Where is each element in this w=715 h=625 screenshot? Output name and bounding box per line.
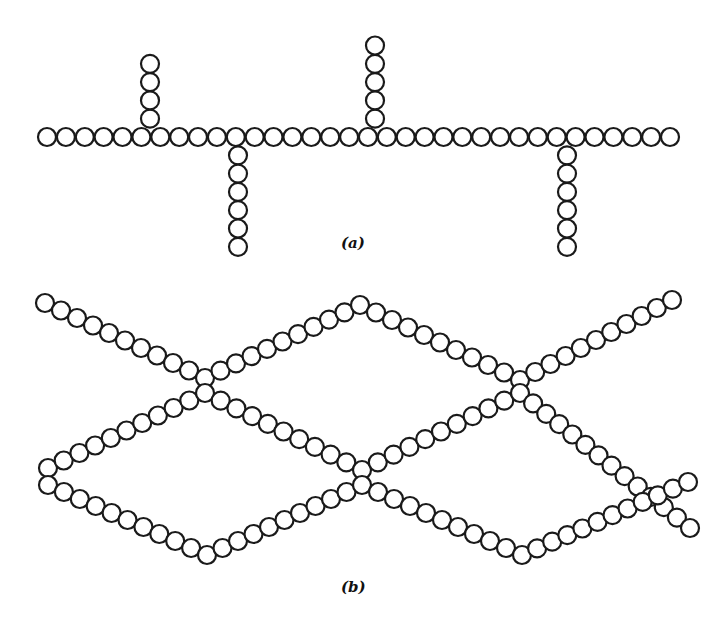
main-chain-bead [114, 128, 132, 146]
main-chain-bead [170, 128, 188, 146]
main-chain-bead [435, 128, 453, 146]
main-chain-bead [151, 128, 169, 146]
branch-bead [366, 55, 384, 73]
branch-bead [229, 201, 247, 219]
main-chain-bead [661, 128, 679, 146]
branch-bead [558, 201, 576, 219]
main-chain-bead [265, 128, 283, 146]
main-chain-bead [642, 128, 660, 146]
main-chain-bead [227, 128, 245, 146]
branch-bead [141, 110, 159, 128]
branch-bead [558, 220, 576, 238]
panel-a-label: (a) [341, 234, 365, 252]
main-chain-bead [548, 128, 566, 146]
main-chain-bead [491, 128, 509, 146]
branch-bead [229, 220, 247, 238]
branch-bead [558, 238, 576, 256]
main-chain-bead [567, 128, 585, 146]
branch-bead [558, 146, 576, 164]
polymer-chain-diagram [0, 0, 715, 625]
branch-bead [141, 55, 159, 73]
main-chain-bead [38, 128, 56, 146]
branch-bead [229, 183, 247, 201]
main-chain-bead [378, 128, 396, 146]
main-chain-bead [189, 128, 207, 146]
main-chain-bead [529, 128, 547, 146]
main-chain-bead [416, 128, 434, 146]
main-chain-bead [321, 128, 339, 146]
branch-bead [366, 110, 384, 128]
chain-middle-bead [681, 519, 699, 537]
main-chain-bead [132, 128, 150, 146]
main-chain-bead [472, 128, 490, 146]
main-chain-bead [208, 128, 226, 146]
branch-bead [558, 165, 576, 183]
main-chain-bead [340, 128, 358, 146]
chain-upper-bead [663, 291, 681, 309]
panel-b-label: (b) [341, 578, 366, 596]
branch-bead [366, 73, 384, 91]
branch-bead [366, 37, 384, 55]
main-chain-bead [604, 128, 622, 146]
chain-lower-bead [679, 473, 697, 491]
main-chain-bead [453, 128, 471, 146]
main-chain-bead [397, 128, 415, 146]
main-chain-bead [95, 128, 113, 146]
main-chain-bead [359, 128, 377, 146]
main-chain-bead [586, 128, 604, 146]
main-chain-bead [246, 128, 264, 146]
main-chain-bead [302, 128, 320, 146]
main-chain-bead [76, 128, 94, 146]
branch-bead [229, 238, 247, 256]
branch-bead [558, 183, 576, 201]
panel-b-crosslinked-chains [36, 291, 699, 564]
main-chain-bead [510, 128, 528, 146]
branch-bead [141, 91, 159, 109]
branch-bead [229, 146, 247, 164]
main-chain-bead [623, 128, 641, 146]
branch-bead [141, 73, 159, 91]
main-chain-bead [283, 128, 301, 146]
panel-a-branched-chain [38, 37, 679, 256]
branch-bead [229, 165, 247, 183]
branch-bead [366, 91, 384, 109]
main-chain-bead [57, 128, 75, 146]
